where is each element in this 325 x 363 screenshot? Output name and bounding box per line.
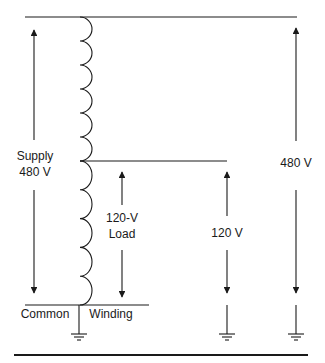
coil-lower: [80, 161, 92, 305]
ground-icon: [71, 305, 87, 340]
supply-label-line1: Supply: [10, 148, 60, 164]
supply-label: Supply 480 V: [10, 148, 60, 180]
ground-icon: [288, 305, 304, 340]
winding-label: Winding: [86, 306, 136, 322]
load-label: 120-V Load: [100, 210, 144, 242]
common-label: Common: [20, 306, 70, 322]
load-label-line2: Load: [100, 226, 144, 242]
load-label-line1: 120-V: [100, 210, 144, 226]
coil-upper: [80, 17, 92, 161]
full-voltage-label: 480 V: [273, 155, 319, 171]
tap-voltage-label: 120 V: [204, 225, 250, 241]
ground-icon: [219, 305, 235, 340]
supply-label-line2: 480 V: [10, 164, 60, 180]
